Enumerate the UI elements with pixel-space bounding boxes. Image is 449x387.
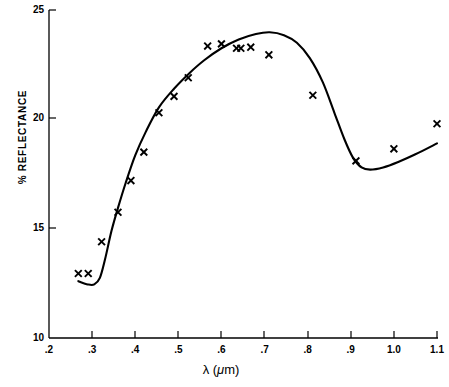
data-point-marker xyxy=(85,270,92,277)
data-point-marker xyxy=(309,92,316,99)
data-point-marker xyxy=(218,40,225,47)
data-point-marker xyxy=(247,44,254,51)
y-axis-ticks xyxy=(49,10,56,228)
data-point-marker xyxy=(75,270,82,277)
data-point-marker xyxy=(171,93,178,100)
data-point-marker xyxy=(204,43,211,50)
data-point-marker xyxy=(265,51,272,58)
x-tick-label-.7: .7 xyxy=(245,345,285,355)
x-tick-label-.6: .6 xyxy=(201,345,241,355)
y-tick-label-25: 25 xyxy=(14,5,44,15)
fitted-curve xyxy=(78,32,437,285)
x-tick-label-.8: .8 xyxy=(288,345,328,355)
y-tick-label-10: 10 xyxy=(14,333,44,343)
x-tick-label-.5: .5 xyxy=(158,345,198,355)
x-tick-label-.9: .9 xyxy=(331,345,371,355)
y-tick-label-20: 20 xyxy=(14,113,44,123)
x-tick-label-.4: .4 xyxy=(115,345,155,355)
x-tick-label-1.0: 1.0 xyxy=(374,345,414,355)
x-axis-ticks xyxy=(92,331,437,338)
data-point-marker xyxy=(434,120,441,127)
data-point-marker xyxy=(237,45,244,52)
data-point-marker xyxy=(390,145,397,152)
data-point-marker xyxy=(140,149,147,156)
y-tick-label-15: 15 xyxy=(14,223,44,233)
x-tick-label-1.1: 1.1 xyxy=(417,345,449,355)
x-tick-label-.2: .2 xyxy=(29,345,69,355)
data-point-marker xyxy=(128,177,135,184)
data-point-markers xyxy=(75,40,440,276)
data-point-marker xyxy=(98,238,105,245)
x-tick-label-.3: .3 xyxy=(72,345,112,355)
